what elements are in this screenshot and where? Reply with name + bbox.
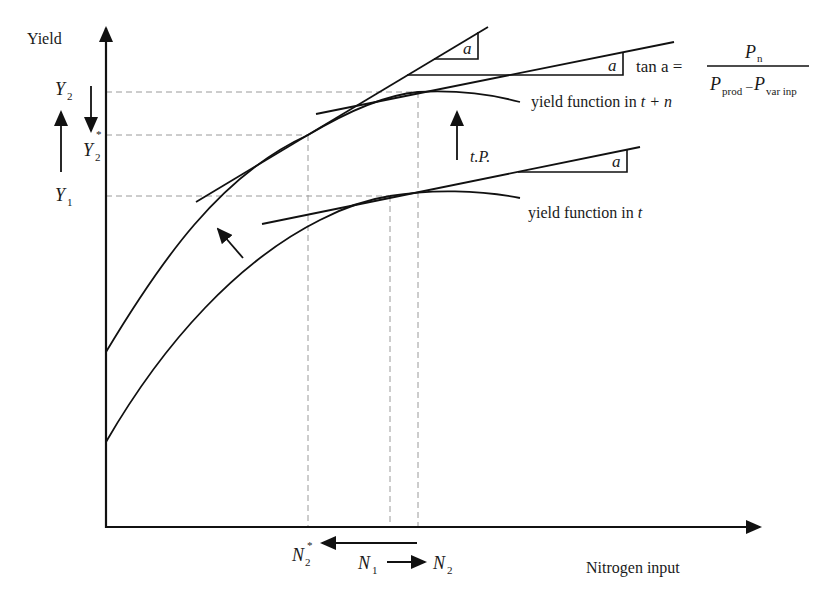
yield-diagram: Yield Nitrogen input Y 2 * Y 2 Y 1 N 2 *… [0,0,834,599]
svg-text:–: – [745,78,753,93]
n2-label: N 2 [432,553,453,576]
n2star-label: N 2 * [291,539,313,568]
yield-curve-t [106,191,520,442]
y-axis-label: Yield [27,30,62,47]
tangent-steep [196,27,488,202]
svg-text:n: n [757,52,763,64]
svg-text:2: 2 [447,564,453,576]
svg-text:1: 1 [372,564,378,576]
n1-label: N 1 [357,553,378,576]
svg-text:P: P [709,74,721,94]
svg-text:var inp: var inp [766,85,797,97]
svg-text:N: N [432,553,446,573]
svg-text:N: N [357,553,371,573]
tech-progress-label: t.P. [470,148,490,165]
svg-text:P: P [753,74,765,94]
svg-text:*: * [307,539,313,551]
y2star-label: * Y 2 [83,128,102,163]
svg-text:2: 2 [305,556,311,568]
curve-shift-arrow [218,229,243,258]
y1-label: Y 1 [55,185,73,208]
angle-a-lower: a [612,152,621,171]
upper-curve-label: yield function in t + n [531,93,672,111]
svg-text:prod: prod [722,85,743,97]
tan-formula: tan a = P n P prod – P var inp [636,42,809,97]
formula-lhs: tan a = [636,57,682,76]
svg-text:1: 1 [67,196,73,208]
svg-text:Y: Y [55,185,67,205]
svg-text:N: N [291,545,305,565]
svg-text:2: 2 [95,151,101,163]
dashed-guides [106,92,418,527]
angle-a-steep: a [463,39,472,58]
svg-text:P: P [744,42,756,62]
svg-text:Y: Y [83,140,95,160]
svg-text:2: 2 [67,90,73,102]
x-axis-label: Nitrogen input [586,559,680,577]
lower-curve-label: yield function in t [528,204,643,222]
angle-a-upper: a [608,56,617,75]
svg-text:Y: Y [55,79,67,99]
arrows [61,86,457,562]
y2-label: Y 2 [55,79,73,102]
svg-text:*: * [96,128,102,140]
